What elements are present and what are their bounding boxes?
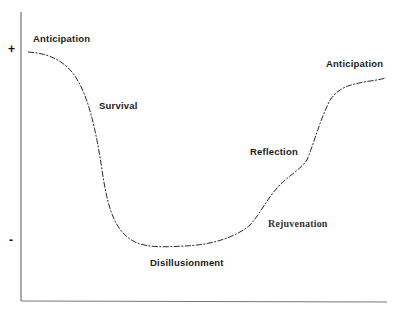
stage-label-survival: Survival (99, 100, 138, 111)
stage-label-rejuvenation: Rejuvenation (268, 218, 328, 229)
x-axis (21, 301, 387, 302)
y-axis-plus-mark: + (8, 42, 15, 56)
change-cycle-curve (28, 52, 386, 247)
stage-label-reflection: Reflection (250, 146, 298, 157)
stage-label-anticipation-start: Anticipation (33, 33, 90, 44)
stage-label-anticipation-end: Anticipation (326, 58, 383, 69)
stage-label-disillusionment: Disillusionment (150, 257, 224, 268)
y-axis-minus-mark: - (9, 233, 13, 247)
